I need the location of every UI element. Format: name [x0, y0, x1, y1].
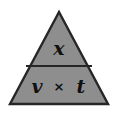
multiplication-operator-icon: × — [54, 79, 65, 94]
formula-triangle-figure: x v × t — [0, 0, 117, 114]
bottom-section-left-label: v — [31, 75, 43, 97]
bottom-section-right-label: t — [77, 75, 86, 97]
top-section-label: x — [52, 37, 65, 59]
formula-triangle-graphic: x v × t — [0, 0, 117, 114]
